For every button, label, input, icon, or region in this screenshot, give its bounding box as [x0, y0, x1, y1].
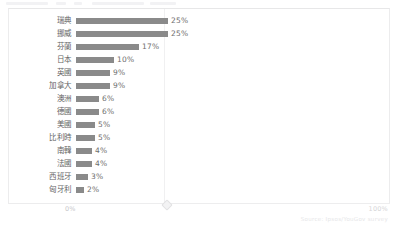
toolbar-ghost-segment [92, 2, 144, 5]
axis-max-label: 100% [369, 205, 388, 213]
bar-category-label: 加拿大 [9, 81, 76, 90]
bar-value-label: 5% [98, 120, 110, 129]
bar-fill[interactable] [76, 187, 84, 193]
bar-fill[interactable] [76, 109, 99, 115]
bar-value-label: 3% [91, 172, 103, 181]
bar-value-label: 5% [98, 133, 110, 142]
bar-category-label: 德國 [9, 107, 76, 116]
bar-fill[interactable] [76, 44, 139, 50]
bar-track: 6% [76, 92, 389, 105]
bar-track: 4% [76, 157, 389, 170]
bar-track: 5% [76, 131, 389, 144]
bar-row[interactable]: 西班牙3% [9, 170, 389, 183]
bar-category-label: 西班牙 [9, 172, 76, 181]
bar-category-label: 日本 [9, 55, 76, 64]
bar-track: 4% [76, 144, 389, 157]
bar-category-label: 英國 [9, 68, 76, 77]
diamond-handle-icon[interactable] [160, 200, 174, 210]
bar-row[interactable]: 比利時5% [9, 131, 389, 144]
bar-rows-container: 瑞典25%挪威25%芬蘭17%日本10%英國9%加拿大9%澳洲6%德國6%美國5… [9, 14, 389, 196]
bar-category-label: 瑞典 [9, 16, 76, 25]
bar-category-label: 芬蘭 [9, 42, 76, 51]
bar-category-label: 南韓 [9, 146, 76, 155]
bar-fill[interactable] [76, 174, 88, 180]
toolbar-ghost-segment [56, 2, 66, 5]
bar-value-label: 6% [102, 94, 114, 103]
axis-line [63, 203, 390, 204]
bar-category-label: 美國 [9, 120, 76, 129]
bar-track: 25% [76, 14, 389, 27]
bar-value-label: 4% [95, 146, 107, 155]
bar-value-label: 25% [171, 29, 188, 38]
bar-value-label: 6% [102, 107, 114, 116]
bar-track: 10% [76, 53, 389, 66]
bar-row[interactable]: 日本10% [9, 53, 389, 66]
bar-category-label: 法國 [9, 159, 76, 168]
bar-value-label: 2% [87, 185, 99, 194]
bar-fill[interactable] [76, 18, 168, 24]
bar-value-label: 9% [113, 81, 125, 90]
bar-value-label: 25% [171, 16, 188, 25]
bar-row[interactable]: 澳洲6% [9, 92, 389, 105]
bar-row[interactable]: 芬蘭17% [9, 40, 389, 53]
bar-category-label: 匈牙利 [9, 185, 76, 194]
bar-row[interactable]: 德國6% [9, 105, 389, 118]
chart-axis: 0% 100% [8, 203, 390, 215]
bar-fill[interactable] [76, 135, 95, 141]
bar-value-label: 17% [142, 42, 159, 51]
bar-row[interactable]: 挪威25% [9, 27, 389, 40]
bar-track: 9% [76, 66, 389, 79]
bar-category-label: 比利時 [9, 133, 76, 142]
bar-fill[interactable] [76, 96, 99, 102]
bar-row[interactable]: 南韓4% [9, 144, 389, 157]
toolbar-ghost-segment [6, 2, 48, 5]
bar-value-label: 10% [117, 55, 134, 64]
bar-fill[interactable] [76, 70, 110, 76]
source-attribution: Source: Ipsos/YouGov survey [301, 216, 388, 222]
bar-fill[interactable] [76, 57, 114, 63]
bar-fill[interactable] [76, 31, 168, 37]
bar-row[interactable]: 匈牙利2% [9, 183, 389, 196]
bar-track: 25% [76, 27, 389, 40]
bar-value-label: 4% [95, 159, 107, 168]
axis-min-label: 0% [65, 205, 76, 213]
bar-track: 9% [76, 79, 389, 92]
bar-category-label: 挪威 [9, 29, 76, 38]
bar-fill[interactable] [76, 161, 92, 167]
chart-panel: 瑞典25%挪威25%芬蘭17%日本10%英國9%加拿大9%澳洲6%德國6%美國5… [8, 8, 390, 204]
bar-fill[interactable] [76, 122, 95, 128]
bar-track: 17% [76, 40, 389, 53]
toolbar-ghost-segment [74, 2, 82, 5]
bar-track: 2% [76, 183, 389, 196]
bar-row[interactable]: 加拿大9% [9, 79, 389, 92]
bar-category-label: 澳洲 [9, 94, 76, 103]
bar-row[interactable]: 美國5% [9, 118, 389, 131]
bar-row[interactable]: 瑞典25% [9, 14, 389, 27]
bar-row[interactable]: 法國4% [9, 157, 389, 170]
bar-track: 3% [76, 170, 389, 183]
bar-track: 6% [76, 105, 389, 118]
toolbar-ghost-segment [150, 2, 176, 5]
top-toolbar-strip [0, 0, 398, 7]
bar-fill[interactable] [76, 148, 92, 154]
bar-track: 5% [76, 118, 389, 131]
bar-value-label: 9% [113, 68, 125, 77]
diamond-shape [161, 199, 172, 210]
bar-fill[interactable] [76, 83, 110, 89]
bar-row[interactable]: 英國9% [9, 66, 389, 79]
